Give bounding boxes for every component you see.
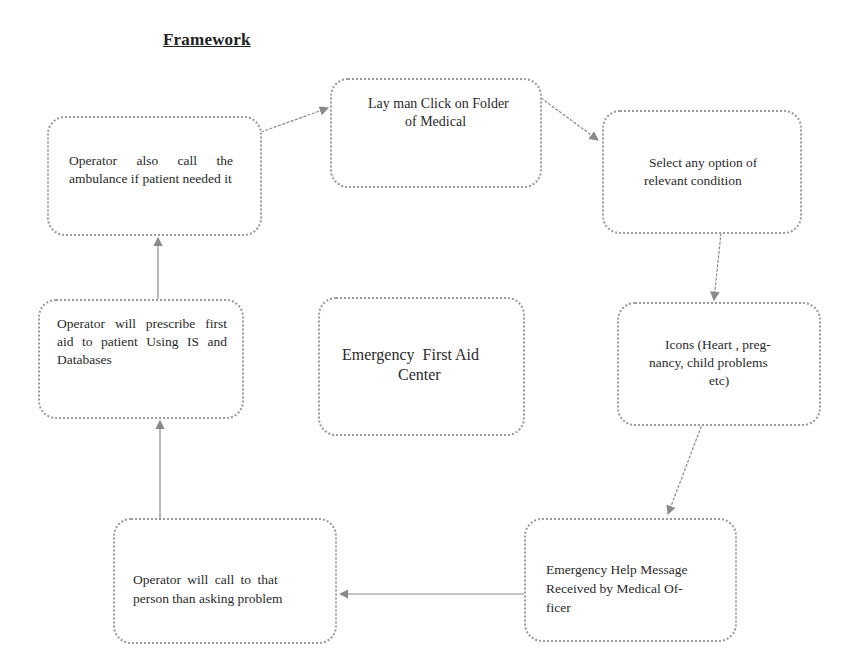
node-help-line2: Received by Medical Of- bbox=[546, 580, 683, 598]
node-layman-line1: Lay man Click on Folder bbox=[368, 95, 509, 113]
node-call-line2: person than asking problem bbox=[133, 590, 283, 608]
node-call-line1: Operator will call to that bbox=[133, 571, 278, 589]
node-icons-line3: etc) bbox=[709, 372, 729, 390]
node-operator-call: Operator will call to that person than a… bbox=[113, 518, 337, 644]
node-help-line3: ficer bbox=[546, 599, 571, 617]
node-emergency-first-aid-center: Emergency First Aid Center bbox=[318, 297, 525, 436]
node-layman: Lay man Click on Folder of Medical bbox=[330, 78, 542, 188]
node-icons-line2: nancy, child problems bbox=[649, 354, 768, 372]
node-icons: Icons (Heart , preg- nancy, child proble… bbox=[617, 302, 821, 426]
arrow-select-to-icons bbox=[714, 233, 721, 300]
node-select-line2: relevant condition bbox=[644, 172, 742, 190]
arrow-icons-to-help bbox=[668, 422, 703, 514]
node-help-message: Emergency Help Message Received by Medic… bbox=[524, 518, 737, 642]
node-center-line2: Center bbox=[398, 365, 441, 385]
node-layman-line2: of Medical bbox=[405, 113, 466, 131]
node-operator-prescribe-text: Operator will prescribe first aid to pat… bbox=[57, 315, 227, 369]
node-operator-ambulance: Operator also call the ambulance if pati… bbox=[47, 116, 262, 236]
node-center-line1: Emergency First Aid bbox=[342, 345, 479, 365]
node-select-line1: Select any option of bbox=[649, 154, 757, 172]
node-select-option: Select any option of relevant condition bbox=[602, 110, 802, 234]
node-help-line1: Emergency Help Message bbox=[546, 561, 687, 579]
arrow-ambulance-to-layman bbox=[261, 108, 328, 132]
node-icons-line1: Icons (Heart , preg- bbox=[665, 336, 771, 354]
arrow-layman-to-select bbox=[541, 98, 598, 140]
node-operator-prescribe: Operator will prescribe first aid to pat… bbox=[38, 299, 244, 419]
node-operator-ambulance-text: Operator also call the ambulance if pati… bbox=[69, 152, 233, 188]
